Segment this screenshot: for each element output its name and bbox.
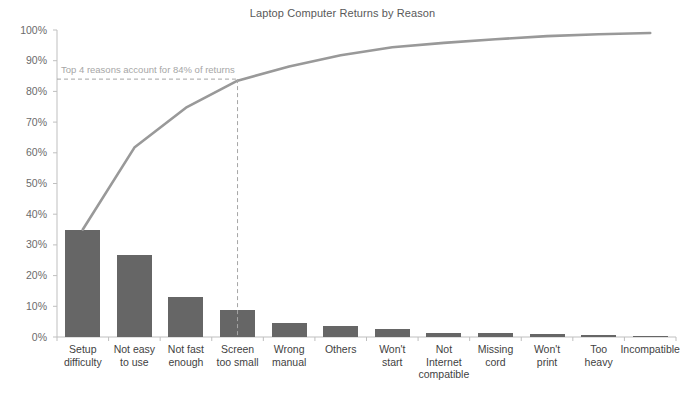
bar — [323, 326, 358, 337]
bar — [375, 329, 410, 337]
cumulative-line-group — [83, 33, 650, 229]
bar — [168, 297, 203, 337]
bar-group — [65, 230, 667, 337]
bar — [426, 333, 461, 337]
x-axis-tick-label: NotInternetcompatible — [418, 343, 469, 380]
x-axis-tick-label: Won'tstart — [379, 343, 405, 368]
y-axis-tick-label: 60% — [26, 146, 47, 158]
y-axis-tick-label: 80% — [26, 85, 47, 97]
x-axis-tick-label: Missingcord — [478, 343, 514, 368]
x-axis-label-group: SetupdifficultyNot easyto useNot fasteno… — [57, 337, 680, 380]
y-axis-tick-label: 40% — [26, 208, 47, 220]
bar — [633, 336, 668, 337]
bar — [272, 323, 307, 337]
x-axis-tick-label: Not easyto use — [114, 343, 156, 368]
annotation-label: Top 4 reasons account for 84% of returns — [61, 64, 235, 75]
y-axis-tick-label: 50% — [26, 177, 47, 189]
y-axis-tick-label: 70% — [26, 116, 47, 128]
y-axis-tick-group: 0%10%20%30%40%50%60%70%80%90%100% — [20, 24, 57, 343]
y-axis-tick-label: 0% — [32, 331, 47, 343]
chart-plot-area: 0%10%20%30%40%50%60%70%80%90%100% Top 4 … — [0, 0, 685, 399]
bar — [65, 230, 100, 337]
bar — [117, 255, 152, 337]
x-axis-tick-label: Incompatible — [620, 343, 680, 355]
y-axis-tick-label: 20% — [26, 269, 47, 281]
x-axis-tick-label: Setupdifficulty — [64, 343, 102, 368]
x-axis-tick-label: Screentoo small — [217, 343, 259, 368]
y-axis-tick-label: 90% — [26, 54, 47, 66]
x-axis-tick-label: Tooheavy — [585, 343, 614, 368]
cumulative-percent-line — [83, 33, 650, 229]
x-axis-tick-label: Wrongmanual — [272, 343, 306, 368]
y-axis-tick-label: 10% — [26, 300, 47, 312]
y-axis-tick-label: 100% — [20, 24, 47, 36]
x-axis-tick-label: Not fastenough — [168, 343, 204, 368]
x-axis-tick-label: Won'tprint — [534, 343, 560, 368]
x-axis-tick-label: Others — [325, 343, 357, 355]
bar — [530, 334, 565, 337]
bar — [478, 333, 513, 337]
y-axis-tick-label: 30% — [26, 238, 47, 250]
pareto-chart: Laptop Computer Returns by Reason 0%10%2… — [0, 0, 685, 399]
bar — [581, 335, 616, 337]
